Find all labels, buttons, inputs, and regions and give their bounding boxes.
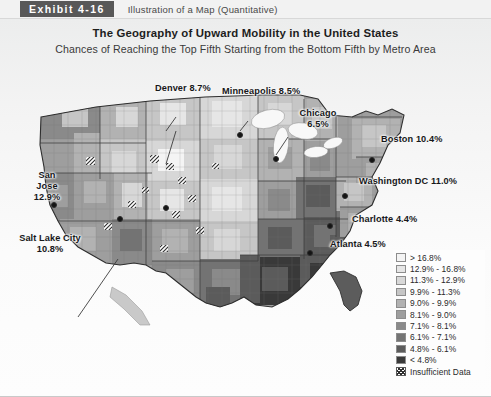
- city-dot-washington-dc[interactable]: [342, 193, 348, 199]
- legend-label-5: 9.0% - 9.9%: [410, 298, 456, 308]
- city-dot-minneapolis[interactable]: [237, 132, 243, 138]
- city-dot-boston[interactable]: [369, 157, 375, 163]
- legend-item[interactable]: 9.9% - 11.3%: [396, 286, 483, 297]
- map-legend: > 16.8% 12.9% - 16.8% 11.3% - 12.9% 9.9%…: [393, 250, 485, 380]
- baja-landmass: [110, 287, 150, 325]
- legend-swatch-6: [396, 310, 406, 319]
- legend-swatch-insufficient-data: [396, 367, 406, 376]
- city-label-san-jose-line1: San: [19, 170, 75, 181]
- legend-label-2: 12.9% - 16.8%: [410, 264, 466, 274]
- legend-label-6: 8.1% - 9.0%: [410, 310, 456, 320]
- legend-swatch-1: [396, 253, 406, 262]
- legend-swatch-3: [396, 276, 406, 285]
- legend-swatch-7: [396, 322, 406, 331]
- legend-label-1: > 16.8%: [410, 253, 441, 263]
- city-label-san-jose-line2: Jose: [19, 181, 75, 192]
- city-label-minneapolis: Minneapolis 8.5%: [222, 86, 300, 97]
- legend-swatch-10: [396, 356, 406, 365]
- city-label-salt-lake-city: Salt Lake City 10.8%: [6, 233, 94, 255]
- title-block: The Geography of Upward Mobility in the …: [0, 27, 491, 55]
- legend-item[interactable]: 11.3% - 12.9%: [396, 275, 483, 286]
- legend-label-10: < 4.8%: [410, 355, 437, 365]
- city-label-charlotte: Charlotte 4.4%: [352, 214, 417, 225]
- legend-item[interactable]: 9.0% - 9.9%: [396, 298, 483, 309]
- legend-item[interactable]: 7.1% - 8.1%: [396, 320, 483, 331]
- legend-item[interactable]: Insufficient Data: [396, 366, 483, 377]
- city-label-salt-lake-city-name: Salt Lake City: [6, 233, 94, 244]
- city-label-salt-lake-city-value: 10.8%: [6, 244, 94, 255]
- legend-label-4: 9.9% - 11.3%: [410, 287, 460, 297]
- city-dot-atlanta[interactable]: [307, 250, 313, 256]
- legend-swatch-4: [396, 288, 406, 297]
- city-dot-chicago[interactable]: [273, 156, 279, 162]
- legend-item[interactable]: 12.9% - 16.8%: [396, 263, 483, 274]
- city-label-san-jose: San Jose 12.9%: [19, 170, 75, 203]
- city-dot-charlotte[interactable]: [327, 223, 333, 229]
- florida-region: [330, 271, 362, 311]
- city-dot-denver[interactable]: [163, 205, 169, 211]
- legend-item[interactable]: < 4.8%: [396, 355, 483, 366]
- city-label-boston: Boston 10.4%: [381, 134, 442, 145]
- legend-item[interactable]: 4.8% - 6.1%: [396, 343, 483, 354]
- legend-label-3: 11.3% - 12.9%: [410, 275, 465, 285]
- exhibit-header: Exhibit 4-16 Illustration of a Map (Quan…: [0, 0, 491, 19]
- city-label-chicago-name: Chicago: [294, 108, 342, 119]
- city-label-chicago-value: 6.5%: [294, 119, 342, 130]
- chart-title: The Geography of Upward Mobility in the …: [0, 27, 491, 40]
- city-label-atlanta: Atlanta 4.5%: [330, 239, 386, 250]
- legend-item[interactable]: > 16.8%: [396, 252, 483, 263]
- exhibit-caption: Illustration of a Map (Quantitative): [128, 4, 278, 15]
- city-label-san-jose-value: 12.9%: [19, 192, 75, 203]
- legend-item[interactable]: 6.1% - 7.1%: [396, 332, 483, 343]
- legend-label-8: 6.1% - 7.1%: [410, 332, 456, 342]
- figure-panel: The Geography of Upward Mobility in the …: [0, 19, 491, 397]
- legend-swatch-9: [396, 345, 406, 354]
- legend-swatch-5: [396, 299, 406, 308]
- legend-label-9: 4.8% - 6.1%: [410, 344, 456, 354]
- chart-subtitle: Chances of Reaching the Top Fifth Starti…: [0, 44, 491, 56]
- city-dot-salt-lake-city[interactable]: [117, 216, 123, 222]
- city-label-chicago: Chicago 6.5%: [294, 108, 342, 130]
- city-label-washington-dc: Washington DC 11.0%: [359, 176, 457, 187]
- city-label-denver: Denver 8.7%: [155, 83, 211, 94]
- legend-item[interactable]: 8.1% - 9.0%: [396, 309, 483, 320]
- legend-label-11: Insufficient Data: [410, 367, 471, 377]
- legend-swatch-8: [396, 333, 406, 342]
- exhibit-number-badge: Exhibit 4-16: [20, 1, 114, 17]
- legend-swatch-2: [396, 265, 406, 274]
- legend-label-7: 7.1% - 8.1%: [410, 321, 456, 331]
